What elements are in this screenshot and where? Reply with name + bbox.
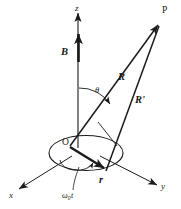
vector-label-R: R (118, 72, 125, 83)
construction-edge-upper (98, 122, 117, 146)
omega-symbol: ω (62, 191, 68, 200)
y-axis-label: y (161, 182, 165, 191)
time-variable: t (71, 191, 73, 200)
physics-vector-diagram: z x y P O B R R' r θ ω0t (0, 0, 181, 209)
phase-angle-label: ω0t (62, 192, 73, 200)
y-axis-line (100, 156, 157, 185)
vector-label-R-prime: R' (135, 95, 145, 106)
magnetic-field-label-B: B (61, 47, 68, 58)
z-axis-label: z (75, 4, 79, 13)
theta-angle-label: θ (95, 86, 99, 95)
field-point-label-P: P (162, 6, 167, 16)
diagram-canvas (0, 0, 181, 209)
origin-label-O: O (62, 138, 69, 148)
x-axis-label: x (9, 191, 13, 200)
radius-vector-r (70, 147, 104, 168)
vector-label-r: r (99, 175, 103, 186)
omega-subscript: 0 (68, 195, 71, 201)
x-axis-line (19, 156, 72, 189)
position-vector-R (70, 25, 158, 146)
position-vector-R-prime (106, 26, 159, 171)
phase-angle-arc (60, 160, 93, 170)
